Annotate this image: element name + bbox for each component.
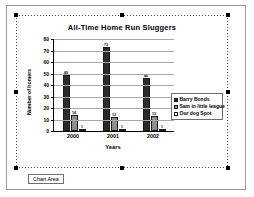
legend-item[interactable]: Sam in little league xyxy=(174,103,220,110)
y-axis-tick-label: 40 xyxy=(43,83,49,88)
gridline xyxy=(54,62,174,63)
legend-item[interactable]: Barry Bonds xyxy=(174,96,220,103)
x-axis-tick-label: 2001 xyxy=(98,133,128,139)
y-axis-tickmark xyxy=(51,74,54,75)
bar-value-label: 1 xyxy=(81,126,83,130)
gridline xyxy=(54,97,174,98)
bar-value-label: 73 xyxy=(104,44,108,48)
y-axis-tickmark xyxy=(51,120,54,121)
bar-value-label: 1 xyxy=(121,126,123,130)
bar-value-label: 13 xyxy=(152,113,156,117)
legend-item-label: Barry Bonds xyxy=(180,97,210,102)
y-axis-tick-label: 70 xyxy=(43,48,49,53)
y-axis-tick-labels: 80706050403020100 xyxy=(36,39,51,131)
y-axis-tick-label: 50 xyxy=(43,71,49,76)
legend-item[interactable]: Our dog Spot xyxy=(174,110,220,117)
bar[interactable]: 13 xyxy=(151,116,158,131)
y-axis-tick-label: 30 xyxy=(43,94,49,99)
y-axis-tick-label: 0 xyxy=(46,129,49,134)
bar[interactable]: 1 xyxy=(119,129,126,131)
chart-object[interactable]: All-Time Home Run Sluggers Number of hom… xyxy=(16,15,228,168)
resize-handle-middle-left[interactable] xyxy=(14,90,18,94)
legend-item-label: Our dog Spot xyxy=(180,111,212,116)
gridline xyxy=(54,120,174,121)
y-axis-tickmark xyxy=(51,108,54,109)
y-axis-title: Number of homers xyxy=(26,0,36,61)
y-axis-tick-label: 60 xyxy=(43,60,49,65)
y-axis-tickmark xyxy=(51,131,54,132)
gridline xyxy=(54,51,174,52)
y-axis-tickmark xyxy=(51,39,54,40)
legend-item-label: Sam in little league xyxy=(180,104,225,109)
chart-legend[interactable]: Barry BondsSam in little leagueOur dog S… xyxy=(171,93,223,120)
resize-handle-middle-right[interactable] xyxy=(226,90,230,94)
resize-handle-top-right[interactable] xyxy=(226,13,230,17)
y-axis-tickmark xyxy=(51,85,54,86)
name-box-chart-area[interactable]: Chart Area xyxy=(28,174,64,184)
bar-value-label: 1 xyxy=(161,126,163,130)
y-axis-tickmark xyxy=(51,62,54,63)
gridline xyxy=(54,108,174,109)
chart-title: All-Time Home Run Sluggers xyxy=(16,23,228,32)
x-axis-title: Years xyxy=(53,144,173,150)
y-axis-title-text: Number of homers xyxy=(26,61,32,123)
legend-swatch-icon xyxy=(174,105,178,109)
bar-value-label: 46 xyxy=(144,75,148,79)
resize-handle-bottom-right[interactable] xyxy=(226,166,230,170)
x-axis-tick-label: 2002 xyxy=(138,133,168,139)
y-axis-tick-label: 80 xyxy=(43,37,49,42)
plot-area: 491417312146131 xyxy=(53,39,174,132)
legend-swatch-icon xyxy=(174,112,178,116)
bar[interactable]: 46 xyxy=(143,78,150,131)
y-axis-tick-label: 10 xyxy=(43,117,49,122)
bar[interactable]: 14 xyxy=(71,115,78,131)
resize-handle-top-center[interactable] xyxy=(120,13,124,17)
bar[interactable]: 1 xyxy=(159,129,166,131)
resize-handle-bottom-center[interactable] xyxy=(120,166,124,170)
x-axis-tick-label: 2000 xyxy=(58,133,88,139)
bar[interactable]: 1 xyxy=(79,129,86,131)
bar[interactable]: 73 xyxy=(103,47,110,131)
bar[interactable]: 49 xyxy=(63,75,70,131)
x-axis-tick-labels: 200020012002 xyxy=(53,133,173,139)
legend-swatch-icon xyxy=(174,98,178,102)
y-axis-tick-label: 20 xyxy=(43,106,49,111)
resize-handle-top-left[interactable] xyxy=(14,13,18,17)
bar-value-label: 12 xyxy=(112,114,116,118)
worksheet-frame: All-Time Home Run Sluggers Number of hom… xyxy=(6,5,246,190)
bar-value-label: 14 xyxy=(72,112,76,116)
gridline xyxy=(54,39,174,40)
y-axis-tickmark xyxy=(51,51,54,52)
y-axis-tickmark xyxy=(51,97,54,98)
gridline xyxy=(54,85,174,86)
resize-handle-bottom-left[interactable] xyxy=(14,166,18,170)
gridline xyxy=(54,74,174,75)
